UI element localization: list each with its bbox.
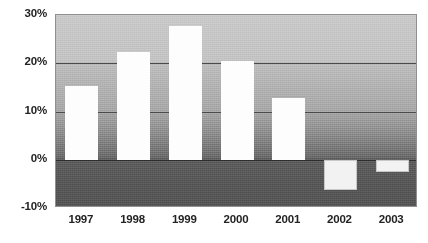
- gridline-0: [56, 160, 416, 161]
- x-tick-label-2001: 2001: [262, 213, 314, 225]
- x-tick-label-1997: 1997: [55, 213, 107, 225]
- bar-1999: [169, 26, 202, 160]
- bar-chart: 30%20%10%0%-10% 199719981999200020012002…: [0, 0, 428, 243]
- y-tick-label-10: 10%: [0, 104, 47, 116]
- x-tick-label-2002: 2002: [313, 213, 365, 225]
- bar-2003: [376, 160, 409, 172]
- bar-1997: [65, 86, 98, 160]
- bar-2001: [272, 98, 305, 160]
- y-tick-label-30: 30%: [0, 7, 47, 19]
- x-tick-label-1998: 1998: [107, 213, 159, 225]
- bar-1998: [117, 52, 150, 160]
- x-tick-label-1999: 1999: [158, 213, 210, 225]
- y-tick-label--10: -10%: [0, 200, 47, 212]
- x-tick-label-2003: 2003: [365, 213, 417, 225]
- x-tick-label-2000: 2000: [210, 213, 262, 225]
- y-tick-label-0: 0%: [0, 152, 47, 164]
- bar-2002: [324, 160, 357, 190]
- y-tick-label-20: 20%: [0, 55, 47, 67]
- bar-2000: [221, 61, 254, 160]
- plot-area: [55, 14, 417, 207]
